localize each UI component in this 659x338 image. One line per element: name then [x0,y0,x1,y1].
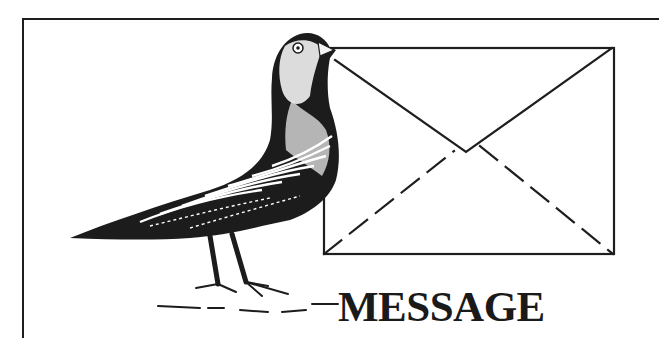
message-title: MESSAGE [338,283,545,331]
pigeon-icon [70,33,339,312]
envelope-icon [324,48,614,254]
illustration [0,0,659,338]
